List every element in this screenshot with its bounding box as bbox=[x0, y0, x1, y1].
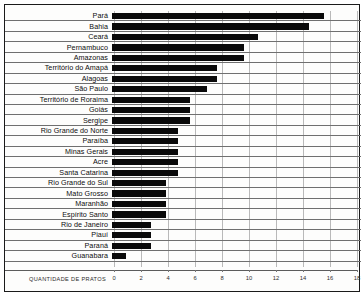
bar-row: Pernambuco bbox=[5, 42, 361, 52]
bar-category-label: Território do Amapá bbox=[5, 64, 112, 72]
x-axis-title: QUANTIDADE DE PRATOS bbox=[29, 276, 106, 282]
x-axis-tick-label: 0 bbox=[112, 275, 115, 281]
x-axis-tick-label: 18 bbox=[354, 275, 360, 281]
row-separator bbox=[5, 261, 361, 262]
bar-row: Paraíba bbox=[5, 136, 361, 146]
bar-row: Goiás bbox=[5, 105, 361, 115]
bar-category-label: Rio Grande do Norte bbox=[5, 127, 112, 135]
row-separator bbox=[5, 156, 361, 157]
x-axis-tick-label: 2 bbox=[139, 275, 142, 281]
bar bbox=[112, 211, 166, 217]
row-separator bbox=[5, 240, 361, 241]
bar-category-label: Paraíba bbox=[5, 137, 112, 145]
bar bbox=[112, 13, 324, 19]
bar-category-label: Pará bbox=[5, 12, 112, 20]
row-separator bbox=[5, 187, 361, 188]
row-separator bbox=[5, 41, 361, 42]
x-axis-line bbox=[5, 270, 357, 271]
row-separator bbox=[5, 146, 361, 147]
bar-category-label: Ceará bbox=[5, 33, 112, 41]
bar bbox=[112, 222, 151, 228]
bar bbox=[112, 190, 166, 196]
row-separator bbox=[5, 83, 361, 84]
bar-category-label: Amazonas bbox=[5, 54, 112, 62]
bar bbox=[112, 243, 151, 249]
bar-row: Amazonas bbox=[5, 53, 361, 63]
bar-category-label: Território de Roraima bbox=[5, 96, 112, 104]
bar-row: Território do Amapá bbox=[5, 63, 361, 73]
bar-category-label: Rio de Janeiro bbox=[5, 221, 112, 229]
row-separator bbox=[5, 229, 361, 230]
x-axis-tick-label: 16 bbox=[327, 275, 333, 281]
bar-row: Mato Grosso bbox=[5, 188, 361, 198]
bar-row: Rio Grande do Norte bbox=[5, 126, 361, 136]
row-separator bbox=[5, 219, 361, 220]
bar-row: Rio Grande do Sul bbox=[5, 178, 361, 188]
bar-row: Alagoas bbox=[5, 74, 361, 84]
bar bbox=[112, 76, 217, 82]
bar-row: Ceará bbox=[5, 32, 361, 42]
x-axis-tick-mark bbox=[303, 270, 304, 272]
row-separator bbox=[5, 52, 361, 53]
bar bbox=[112, 86, 207, 92]
x-axis: QUANTIDADE DE PRATOS 024681012141618 bbox=[5, 270, 361, 292]
bar-category-label: Mato Grosso bbox=[5, 190, 112, 198]
bar-rows: ParáBahiaCearáPernambucoAmazonasTerritór… bbox=[5, 11, 361, 262]
bar-row: Santa Catarina bbox=[5, 168, 361, 178]
bar-category-label: Rio Grande do Sul bbox=[5, 179, 112, 187]
bar-category-label: Santa Catarina bbox=[5, 169, 112, 177]
bar-category-label: Bahia bbox=[5, 23, 112, 31]
bar-category-label: São Paulo bbox=[5, 85, 112, 93]
bar-row: Bahia bbox=[5, 21, 361, 31]
bar-row: São Paulo bbox=[5, 84, 361, 94]
bar-row: Espírito Santo bbox=[5, 209, 361, 219]
bar bbox=[112, 55, 244, 61]
bar bbox=[112, 253, 126, 259]
bar bbox=[112, 107, 190, 113]
x-axis-tick-label: 8 bbox=[220, 275, 223, 281]
bar bbox=[112, 149, 178, 155]
bar bbox=[112, 97, 190, 103]
x-axis-tick-label: 12 bbox=[273, 275, 279, 281]
plot-area: ParáBahiaCearáPernambucoAmazonasTerritór… bbox=[5, 5, 361, 293]
bar-category-label: Pernambuco bbox=[5, 44, 112, 52]
bar bbox=[112, 23, 309, 29]
row-separator bbox=[5, 250, 361, 251]
x-axis-tick-mark bbox=[114, 270, 115, 272]
x-axis-tick-mark bbox=[168, 270, 169, 272]
bar bbox=[112, 138, 178, 144]
bar-row: Paraná bbox=[5, 241, 361, 251]
bar bbox=[112, 180, 166, 186]
x-axis-tick-label: 6 bbox=[193, 275, 196, 281]
bar-category-label: Maranhão bbox=[5, 200, 112, 208]
bar bbox=[112, 170, 178, 176]
row-separator bbox=[5, 114, 361, 115]
bar-row: Rio de Janeiro bbox=[5, 220, 361, 230]
bar-category-label: Acre bbox=[5, 158, 112, 166]
bar-row: Pará bbox=[5, 11, 361, 21]
bar-row: Guanabara bbox=[5, 251, 361, 261]
bar bbox=[112, 34, 258, 40]
bar-row: Território de Roraima bbox=[5, 95, 361, 105]
bar-row: Maranhão bbox=[5, 199, 361, 209]
bar-row: Piauí bbox=[5, 230, 361, 240]
bar bbox=[112, 128, 178, 134]
row-separator bbox=[5, 208, 361, 209]
bar bbox=[112, 65, 217, 71]
x-axis-tick-mark bbox=[141, 270, 142, 272]
bar bbox=[112, 201, 166, 207]
bar-row: Minas Gerais bbox=[5, 147, 361, 157]
bar-category-label: Guanabara bbox=[5, 252, 112, 260]
bar bbox=[112, 159, 178, 165]
row-separator bbox=[5, 104, 361, 105]
bar-category-label: Espírito Santo bbox=[5, 211, 112, 219]
bar-category-label: Goiás bbox=[5, 106, 112, 114]
bar bbox=[112, 44, 244, 50]
bar-category-label: Piauí bbox=[5, 231, 112, 239]
bar-row: Acre bbox=[5, 157, 361, 167]
bar-category-label: Sergipe bbox=[5, 117, 112, 125]
row-separator bbox=[5, 73, 361, 74]
x-axis-tick-label: 10 bbox=[246, 275, 252, 281]
x-axis-tick-label: 4 bbox=[166, 275, 169, 281]
bar bbox=[112, 117, 190, 123]
